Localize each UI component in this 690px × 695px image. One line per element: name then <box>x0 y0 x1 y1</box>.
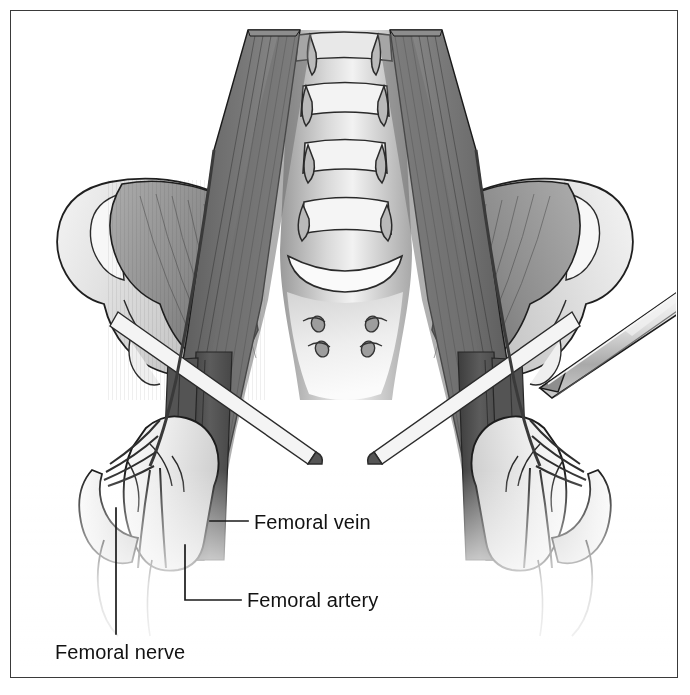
illustration-page: Femoral vein Femoral artery Femoral nerv… <box>0 0 690 695</box>
label-femoral-artery: Femoral artery <box>247 589 378 612</box>
label-femoral-vein: Femoral vein <box>254 511 371 534</box>
label-femoral-nerve: Femoral nerve <box>55 641 185 664</box>
